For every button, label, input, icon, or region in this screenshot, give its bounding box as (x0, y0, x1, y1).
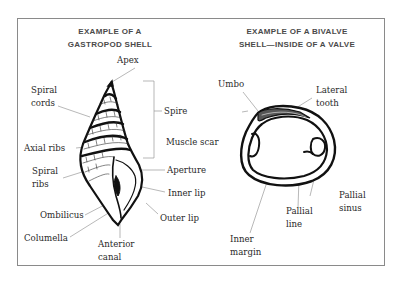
label-pallial-line-line1: Pallial (286, 205, 313, 218)
label-lateral-tooth-line2: tooth (316, 97, 339, 110)
label-anterior-canal-line1: Anterior (98, 238, 134, 251)
label-lateral-tooth-line1: Lateral (316, 84, 347, 97)
leader-apex (112, 68, 135, 82)
label-inner-lip: Inner lip (168, 187, 205, 200)
label-muscle-scar: Muscle scar (166, 136, 219, 149)
leader-umbo (243, 92, 258, 111)
label-spiral-cords-line2: cords (31, 97, 55, 110)
label-inner-margin-line1: Inner (230, 233, 254, 246)
label-spiral-ribs-line1: Spiral (32, 165, 58, 178)
label-outer-lip: Outer lip (160, 212, 199, 225)
label-spiral-cords-line1: Spiral (31, 84, 57, 97)
leader-inner-margin (250, 182, 267, 233)
label-axial-ribs: Axial ribs (24, 142, 65, 155)
leader-spiral-cords (58, 106, 90, 117)
bivalve-valve-drawing (241, 106, 335, 186)
label-spire: Spire (164, 105, 187, 118)
bivalve-title-line2: SHELL—INSIDE OF A VALVE (222, 38, 372, 51)
label-pallial-line-line2: line (286, 218, 302, 231)
gastropod-title-line2: GASTROPOD SHELL (55, 38, 165, 51)
spire-bracket (143, 81, 154, 158)
bivalve-title-line1: EXAMPLE OF A BIVALVE (222, 25, 372, 38)
gastropod-shell-drawing (80, 81, 142, 225)
label-umbo: Umbo (218, 78, 244, 91)
label-pallial-sinus-line2: sinus (339, 202, 362, 215)
label-aperture: Aperture (167, 164, 206, 177)
label-inner-margin-line2: margin (230, 246, 261, 259)
gastropod-title-line1: EXAMPLE OF A (55, 25, 165, 38)
label-spiral-ribs-line2: ribs (32, 178, 49, 191)
label-apex: Apex (117, 54, 139, 67)
label-pallial-sinus-line1: Pallial (339, 189, 366, 202)
label-anterior-canal-line2: canal (98, 251, 121, 264)
leader-spiral-ribs (63, 172, 82, 178)
label-ombilicus: Ombilicus (40, 209, 84, 222)
leader-outer-lip (146, 203, 158, 214)
label-columella: Columella (24, 232, 68, 245)
leader-muscle-scar (242, 111, 248, 112)
